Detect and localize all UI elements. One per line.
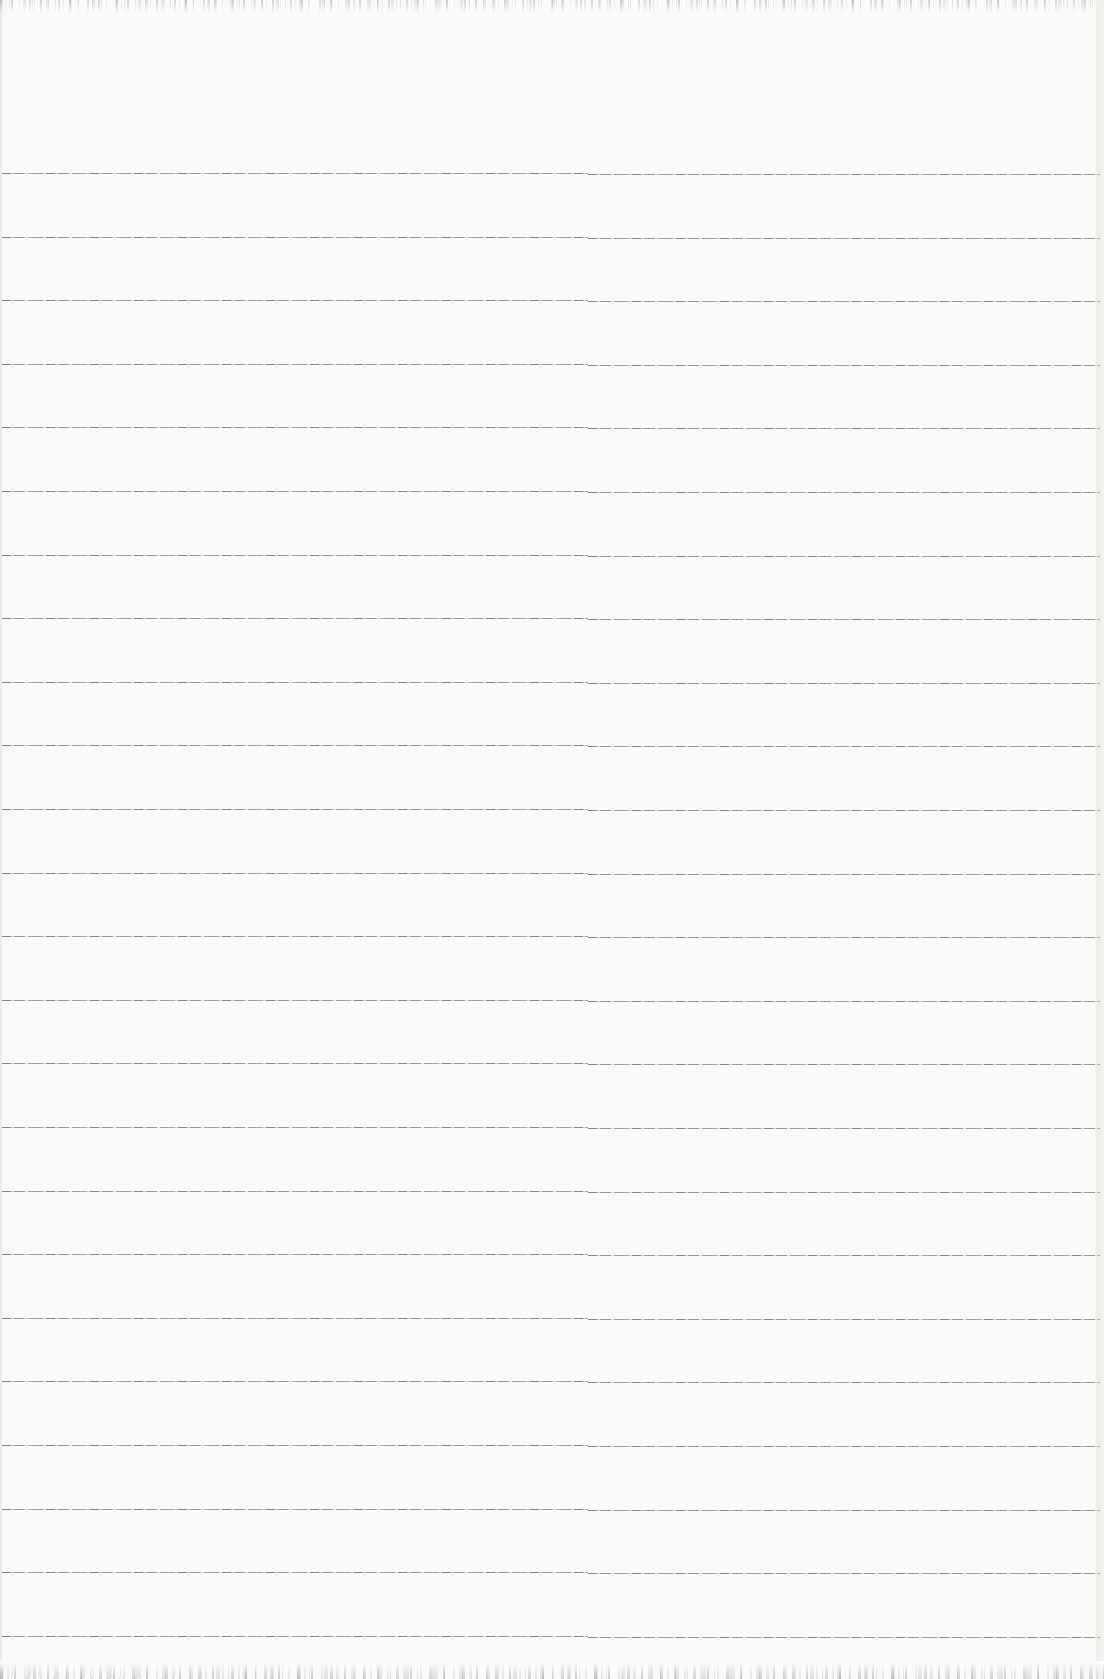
rule-line-right-segment <box>588 810 1100 811</box>
rule-line-right-segment <box>588 1255 1100 1256</box>
rule-line <box>0 1191 1104 1194</box>
rule-line-left-segment <box>2 1381 588 1382</box>
rule-line <box>0 1063 1104 1066</box>
rule-line <box>0 618 1104 621</box>
rule-line-right-segment <box>588 1446 1100 1447</box>
rule-line-right-segment <box>588 238 1100 239</box>
rule-line-right-segment <box>588 174 1100 175</box>
rule-line-right-segment <box>588 683 1100 684</box>
rule-line-left-segment <box>2 173 588 174</box>
rule-line <box>0 427 1104 430</box>
rule-line <box>0 1254 1104 1257</box>
rule-line-left-segment <box>2 1254 588 1255</box>
rule-line-right-segment <box>588 1192 1100 1193</box>
rule-line <box>0 682 1104 685</box>
rule-line <box>0 1381 1104 1384</box>
rule-line-right-segment <box>588 937 1100 938</box>
rule-line-left-segment <box>2 1000 588 1001</box>
bottom-page-edge-grain <box>0 1661 1104 1679</box>
rule-line-right-segment <box>588 874 1100 875</box>
rule-line <box>0 1572 1104 1575</box>
rule-line-left-segment <box>2 300 588 301</box>
rule-line-left-segment <box>2 427 588 428</box>
rule-line-right-segment <box>588 1064 1100 1065</box>
rule-line-left-segment <box>2 237 588 238</box>
rule-line-left-segment <box>2 1445 588 1446</box>
rule-line-right-segment <box>588 556 1100 557</box>
rule-line <box>0 555 1104 558</box>
rule-line <box>0 809 1104 812</box>
rule-line <box>0 1000 1104 1003</box>
rule-line-right-segment <box>588 365 1100 366</box>
rule-line-right-segment <box>588 301 1100 302</box>
rule-line-right-segment <box>588 492 1100 493</box>
rule-line <box>0 491 1104 494</box>
rule-line-right-segment <box>588 1128 1100 1129</box>
rule-line <box>0 1445 1104 1448</box>
rule-line-left-segment <box>2 682 588 683</box>
rule-line <box>0 873 1104 876</box>
rule-line-left-segment <box>2 1636 588 1637</box>
rule-line-right-segment <box>588 746 1100 747</box>
rule-line <box>0 364 1104 367</box>
rule-line-right-segment <box>588 1573 1100 1574</box>
rule-line-right-segment <box>588 428 1100 429</box>
rule-line-left-segment <box>2 745 588 746</box>
rule-line-left-segment <box>2 1318 588 1319</box>
rule-line <box>0 936 1104 939</box>
rule-line-right-segment <box>588 1637 1100 1638</box>
rule-line-right-segment <box>588 1510 1100 1511</box>
rule-line-left-segment <box>2 364 588 365</box>
rule-line-left-segment <box>2 1572 588 1573</box>
rule-line-left-segment <box>2 555 588 556</box>
rule-line-right-segment <box>588 619 1100 620</box>
rule-line-right-segment <box>588 1319 1100 1320</box>
rule-line <box>0 173 1104 176</box>
rule-line <box>0 1127 1104 1130</box>
rule-line <box>0 237 1104 240</box>
rule-line-left-segment <box>2 618 588 619</box>
rule-line-right-segment <box>588 1382 1100 1383</box>
rule-line <box>0 1509 1104 1512</box>
rule-line-left-segment <box>2 936 588 937</box>
rule-line-left-segment <box>2 873 588 874</box>
notebook-page <box>0 0 1104 1679</box>
rule-line-left-segment <box>2 491 588 492</box>
rule-line <box>0 1318 1104 1321</box>
rule-line-left-segment <box>2 1127 588 1128</box>
rule-line-left-segment <box>2 1063 588 1064</box>
rule-line-right-segment <box>588 1001 1100 1002</box>
rule-line <box>0 1636 1104 1639</box>
rule-line <box>0 745 1104 748</box>
ruled-lines-container <box>0 0 1104 1679</box>
rule-line-left-segment <box>2 1509 588 1510</box>
rule-line <box>0 300 1104 303</box>
rule-line-left-segment <box>2 1191 588 1192</box>
rule-line-left-segment <box>2 809 588 810</box>
